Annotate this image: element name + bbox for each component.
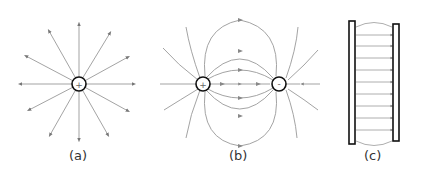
caption-c: (c) xyxy=(364,148,381,163)
positive-plate xyxy=(349,21,355,144)
panel-b-dipole xyxy=(160,20,320,146)
electric-field-diagram: + + - xyxy=(0,0,425,181)
svg-text:+: + xyxy=(75,80,83,90)
panel-c-capacitor xyxy=(356,23,392,146)
negative-plate xyxy=(393,24,399,141)
svg-text:+: + xyxy=(199,80,207,90)
svg-text:-: - xyxy=(277,79,280,89)
caption-b: (b) xyxy=(229,148,247,163)
dipole-arrows xyxy=(220,18,261,148)
caption-a: (a) xyxy=(69,148,87,163)
